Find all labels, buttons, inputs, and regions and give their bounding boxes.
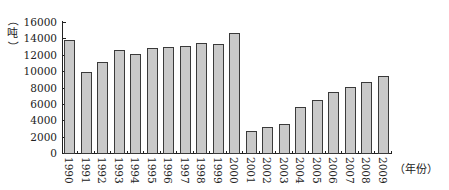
y-tick-label: 10000 xyxy=(7,66,57,76)
x-tick xyxy=(226,151,227,154)
x-tick-label: 2000 xyxy=(229,157,239,184)
x-tick xyxy=(341,151,342,154)
x-tick-label: 2003 xyxy=(279,157,289,184)
x-tick xyxy=(242,151,243,154)
bar-1994 xyxy=(130,54,141,154)
bar-1999 xyxy=(213,44,224,154)
x-tick xyxy=(374,151,375,154)
x-tick xyxy=(391,151,392,154)
x-tick-label: 2004 xyxy=(295,157,305,184)
x-tick-label: 1990 xyxy=(64,157,74,184)
bar-2000 xyxy=(229,33,240,154)
x-tick xyxy=(325,151,326,154)
bar-2001 xyxy=(246,131,257,154)
bar-1990 xyxy=(64,40,75,154)
x-tick-label: 2006 xyxy=(328,157,338,184)
x-tick xyxy=(308,151,309,154)
x-tick-label: 2009 xyxy=(378,157,388,184)
x-tick xyxy=(358,151,359,154)
x-tick xyxy=(94,151,95,154)
y-tick xyxy=(62,38,66,39)
x-tick-label: 1993 xyxy=(114,157,124,184)
x-tick-label: 2005 xyxy=(312,157,322,184)
bar-2007 xyxy=(345,87,356,154)
bar-2003 xyxy=(279,124,290,154)
x-tick xyxy=(259,151,260,154)
x-tick xyxy=(77,151,78,154)
x-tick xyxy=(292,151,293,154)
bar-1996 xyxy=(163,47,174,154)
x-tick xyxy=(275,151,276,154)
bar-2009 xyxy=(378,76,389,154)
x-tick-label: 1992 xyxy=(97,157,107,184)
y-tick-label: 8000 xyxy=(7,83,57,93)
y-tick-label: 2000 xyxy=(7,132,57,142)
y-tick-label: 12000 xyxy=(7,50,57,60)
x-tick-label: 1995 xyxy=(147,157,157,184)
x-tick-label: 1997 xyxy=(180,157,190,184)
bar-2005 xyxy=(312,100,323,154)
x-tick-label: 1998 xyxy=(196,157,206,184)
bar-2004 xyxy=(295,107,306,154)
x-tick xyxy=(209,151,210,154)
x-tick-label: 1994 xyxy=(130,157,140,184)
x-tick xyxy=(193,151,194,154)
x-tick xyxy=(176,151,177,154)
bar-1991 xyxy=(81,72,92,154)
bar-1995 xyxy=(147,48,158,154)
bar-1992 xyxy=(97,62,108,154)
bar-2008 xyxy=(361,82,372,154)
y-tick-label: 4000 xyxy=(7,115,57,125)
x-tick xyxy=(143,151,144,154)
y-tick xyxy=(62,22,66,23)
bar-1998 xyxy=(196,43,207,154)
y-tick-label: 16000 xyxy=(7,17,57,27)
bar-1997 xyxy=(180,46,191,154)
x-tick-label: 2008 xyxy=(361,157,371,184)
x-axis-label: （年份） xyxy=(394,160,438,176)
x-tick-label: 2002 xyxy=(262,157,272,184)
x-tick-label: 1991 xyxy=(81,157,91,184)
bar-2002 xyxy=(262,127,273,154)
x-tick-label: 1999 xyxy=(213,157,223,184)
x-tick xyxy=(110,151,111,154)
bar-1993 xyxy=(114,50,125,154)
y-tick-label: 0 xyxy=(7,148,57,158)
y-tick-label: 14000 xyxy=(7,33,57,43)
x-tick-label: 1996 xyxy=(163,157,173,184)
y-tick-label: 6000 xyxy=(7,99,57,109)
x-tick xyxy=(127,151,128,154)
x-tick xyxy=(160,151,161,154)
bar-2006 xyxy=(328,92,339,154)
x-tick-label: 2001 xyxy=(246,157,256,184)
x-tick-label: 2007 xyxy=(345,157,355,184)
bar-chart: （ 吨 ） （年份） 02000400060008000100001200014… xyxy=(0,0,449,190)
